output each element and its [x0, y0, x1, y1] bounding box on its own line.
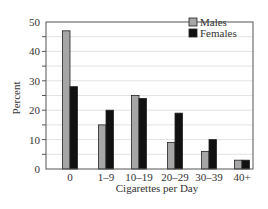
- x-tick-label: 30–39: [195, 171, 223, 183]
- y-tick-label: 30: [29, 75, 41, 87]
- y-tick-label: 40: [29, 45, 41, 57]
- bar-females-5: [242, 160, 250, 169]
- legend-swatch-females: [189, 29, 197, 37]
- y-axis: 01020304050: [29, 16, 46, 175]
- y-tick-label: 10: [29, 134, 41, 146]
- y-axis-title: Percent: [10, 82, 22, 115]
- x-tick-label: 0: [67, 171, 73, 183]
- bar-chart: 01020304050 01–910–1920–2930–3940+ Perce…: [0, 0, 268, 209]
- y-tick-label: 20: [29, 104, 41, 116]
- x-tick-label: 1–9: [98, 171, 115, 183]
- y-tick-label: 50: [29, 16, 41, 28]
- bar-females-1: [106, 110, 114, 169]
- bar-males-5: [235, 160, 243, 169]
- bar-males-4: [202, 151, 210, 169]
- bar-females-2: [139, 98, 147, 169]
- legend: MalesFemales: [189, 16, 237, 39]
- bar-males-2: [132, 96, 140, 170]
- legend-swatch-males: [189, 18, 197, 26]
- bar-males-3: [168, 143, 176, 169]
- bar-males-0: [63, 31, 71, 169]
- bar-females-3: [175, 113, 183, 169]
- x-tick-label: 40+: [233, 171, 250, 183]
- bar-females-4: [209, 140, 217, 169]
- legend-label-females: Females: [200, 27, 237, 39]
- bar-males-1: [99, 125, 107, 169]
- bar-females-0: [70, 87, 78, 169]
- y-tick-label: 0: [35, 163, 41, 175]
- x-axis-title: Cigarettes per Day: [116, 182, 199, 194]
